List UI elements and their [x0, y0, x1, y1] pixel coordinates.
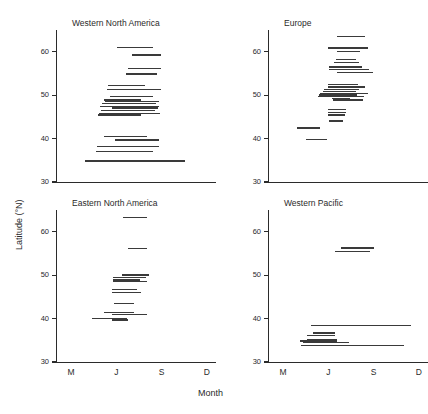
- plot-area: 30405060: [268, 30, 428, 182]
- y-axis: [268, 210, 269, 362]
- y-tick-label: 60: [33, 227, 49, 236]
- data-segment: [104, 136, 147, 137]
- y-axis-label: Latitude (°N): [14, 199, 24, 250]
- y-tick-label: 30: [245, 177, 261, 186]
- x-axis: [268, 362, 428, 363]
- data-segment: [333, 99, 363, 100]
- data-segment: [122, 274, 149, 275]
- data-segment: [108, 85, 145, 86]
- data-segment: [98, 114, 140, 115]
- data-segment: [112, 314, 147, 315]
- y-axis: [56, 30, 57, 182]
- plot-area: 30405060: [56, 30, 216, 182]
- panel-2: Eastern North America 30405060MJSD: [56, 210, 216, 384]
- x-tick-label: S: [367, 367, 381, 377]
- x-axis: [56, 362, 216, 363]
- y-tick: [264, 95, 268, 96]
- y-tick-label: 30: [245, 357, 261, 366]
- data-segment: [329, 66, 361, 67]
- data-segment: [104, 312, 135, 313]
- data-segment: [337, 36, 366, 37]
- data-segment: [112, 292, 141, 293]
- y-tick: [52, 231, 56, 232]
- y-tick: [52, 181, 56, 182]
- y-tick-label: 60: [245, 47, 261, 56]
- data-segment: [297, 127, 320, 128]
- data-segment: [329, 69, 369, 70]
- data-segment: [128, 248, 147, 249]
- y-tick-label: 50: [245, 270, 261, 279]
- y-tick: [52, 138, 56, 139]
- x-tick-label: D: [200, 367, 214, 377]
- y-tick: [264, 275, 268, 276]
- panel-0: Western North America 30405060: [56, 30, 216, 204]
- y-tick-label: 50: [33, 270, 49, 279]
- x-tick-label: J: [109, 367, 123, 377]
- x-axis: [56, 182, 216, 183]
- data-segment: [107, 89, 161, 90]
- x-tick-label: M: [276, 367, 290, 377]
- data-segment: [114, 303, 134, 304]
- data-segment: [303, 342, 348, 343]
- y-tick: [52, 51, 56, 52]
- data-segment: [112, 289, 137, 290]
- data-segment: [328, 112, 346, 113]
- data-segment: [97, 146, 159, 147]
- data-segment: [335, 251, 370, 252]
- y-tick-label: 50: [33, 90, 49, 99]
- data-segment: [123, 217, 147, 218]
- data-segment: [112, 107, 158, 108]
- x-tick-label: J: [321, 367, 335, 377]
- data-segment: [126, 73, 157, 74]
- y-tick-label: 40: [245, 314, 261, 323]
- x-axis: [268, 182, 428, 183]
- panel-title: Western Pacific: [284, 198, 343, 208]
- data-segment: [313, 332, 336, 333]
- y-tick: [52, 95, 56, 96]
- data-segment: [337, 51, 360, 52]
- y-tick-label: 60: [245, 227, 261, 236]
- data-segment: [115, 139, 160, 140]
- data-segment: [328, 86, 365, 87]
- data-segment: [336, 59, 356, 60]
- y-tick: [264, 361, 268, 362]
- y-tick-label: 40: [33, 134, 49, 143]
- y-tick: [264, 181, 268, 182]
- data-segment: [113, 281, 146, 282]
- data-segment: [328, 47, 368, 48]
- x-tick-label: D: [412, 367, 426, 377]
- plot-area: 30405060MJSD: [56, 210, 216, 362]
- data-segment: [110, 96, 154, 97]
- data-segment: [101, 110, 155, 111]
- data-segment: [328, 84, 357, 85]
- y-tick-label: 40: [33, 314, 49, 323]
- data-segment: [337, 72, 373, 73]
- y-tick: [264, 138, 268, 139]
- plot-area: 30405060MJSD: [268, 210, 428, 362]
- y-tick: [52, 318, 56, 319]
- y-tick-label: 60: [33, 47, 49, 56]
- data-segment: [301, 345, 404, 346]
- panel-title: Europe: [284, 18, 311, 28]
- data-segment: [328, 114, 345, 115]
- data-segment: [328, 109, 346, 110]
- data-segment: [85, 160, 185, 161]
- data-segment: [102, 103, 156, 104]
- y-tick-label: 30: [33, 177, 49, 186]
- x-axis-label: Month: [198, 388, 223, 398]
- panel-title: Eastern North America: [72, 198, 158, 208]
- x-tick-label: S: [155, 367, 169, 377]
- data-segment: [132, 54, 161, 55]
- y-tick-label: 50: [245, 90, 261, 99]
- data-segment: [329, 120, 343, 121]
- y-tick: [264, 51, 268, 52]
- panel-1: Europe 30405060: [268, 30, 428, 204]
- y-tick: [52, 275, 56, 276]
- data-segment: [311, 325, 411, 326]
- data-segment: [306, 139, 326, 140]
- y-axis: [56, 210, 57, 362]
- data-segment: [128, 68, 161, 69]
- data-segment: [113, 277, 145, 278]
- data-segment: [307, 335, 335, 336]
